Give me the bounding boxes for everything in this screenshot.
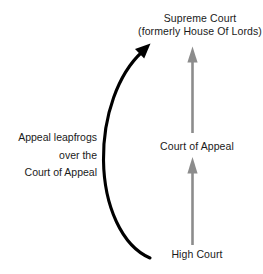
node-label-court-of-appeal: Court of Appeal (160, 140, 234, 153)
leapfrog-annotation-line1: Appeal leapfrogs (18, 129, 97, 147)
supreme-court-line1: Supreme Court (164, 12, 237, 24)
node-label-high-court: High Court (171, 248, 222, 261)
leapfrog-annotation: Appeal leapfrogs over the Court of Appea… (18, 129, 97, 182)
arrow-up-icon-appeal-to-supreme (187, 47, 197, 134)
node-label-supreme-court: Supreme Court (formerly House Of Lords) (138, 12, 262, 38)
supreme-court-line2: (formerly House Of Lords) (138, 25, 262, 38)
court-hierarchy-diagram: Supreme Court (formerly House Of Lords) … (0, 0, 263, 274)
arrow-up-icon-high-to-appeal (187, 157, 197, 245)
leapfrog-annotation-line3: Court of Appeal (18, 164, 97, 182)
curved-arrow-icon-leapfrog (103, 44, 150, 259)
leapfrog-annotation-line2: over the (18, 147, 97, 165)
